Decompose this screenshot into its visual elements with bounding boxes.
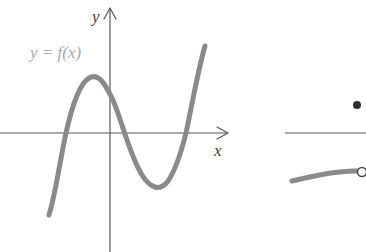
filled-endpoint-dot [353,101,361,109]
function-equation-label: y = f(x) [28,43,81,62]
graph-figure: y x y = f(x) [0,0,366,252]
x-axis-label: x [213,141,222,160]
figure-background [0,0,366,252]
y-axis-label: y [90,7,100,26]
open-endpoint-circle [358,168,366,177]
